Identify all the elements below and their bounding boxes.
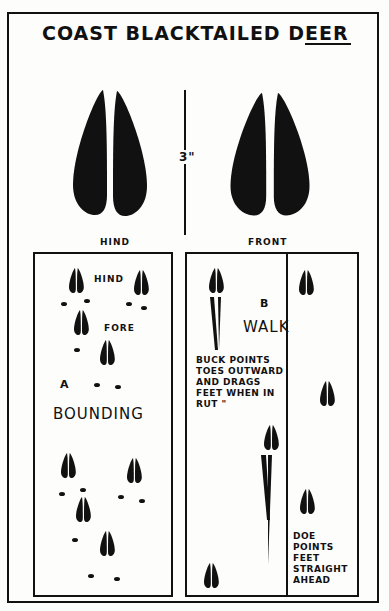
buck-note: BUCK POINTS TOES OUTWARD AND DRAGS FEET …: [196, 355, 286, 410]
hind-hoof-print-large: [73, 90, 147, 216]
walk-divider: [286, 254, 288, 595]
front-hoof-print-large: [231, 93, 310, 216]
panel-bounding: [33, 252, 173, 597]
panel-a-letter: A: [60, 378, 70, 391]
hind-label: HIND: [100, 237, 130, 247]
scale-label: 3": [179, 150, 196, 164]
bounding-fore-label: FORE: [104, 323, 135, 333]
panel-b-letter: B: [260, 297, 269, 310]
bounding-hind-label: HIND: [94, 274, 124, 284]
front-label: FRONT: [248, 237, 287, 247]
bounding-heading: BOUNDING: [53, 405, 144, 423]
doe-note: DOE POINTS FEET STRAIGHT AHEAD: [293, 531, 353, 586]
walk-heading: WALK: [243, 318, 289, 336]
